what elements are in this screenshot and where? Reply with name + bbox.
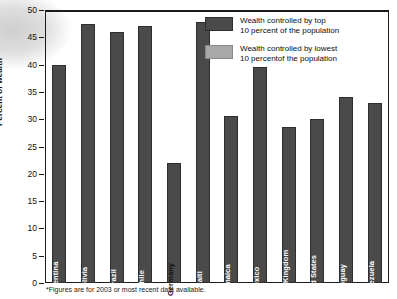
bar-top-uruguay[interactable] <box>339 97 353 283</box>
bar-top-chile[interactable] <box>138 26 152 283</box>
bar-slot-argentina[interactable]: Argentina <box>52 10 66 283</box>
bar-category-label-mexico: Mexico <box>253 266 261 292</box>
chart-footnote: *Figures are for 2003 or most recent dat… <box>46 286 206 293</box>
bar-slot-brazil[interactable]: Brazil <box>110 10 124 283</box>
chart-page: Percent of wealth 50454035302520151050 A… <box>0 0 397 299</box>
y-tick-20: 20 <box>0 169 44 179</box>
legend-label-lowest-line2: 10 percentof the population <box>240 54 337 64</box>
y-tick-25: 25 <box>0 142 44 152</box>
bar-slot-bolivia[interactable]: Bolivia <box>81 10 95 283</box>
bar-top-brazil[interactable] <box>110 32 124 283</box>
y-tick-10: 10 <box>0 223 44 233</box>
legend-label-top-line1: Wealth controlled by top <box>240 16 339 26</box>
legend-label-top: Wealth controlled by top 10 percent of t… <box>240 16 339 35</box>
chart-legend: Wealth controlled by top 10 percent of t… <box>205 16 381 72</box>
legend-label-lowest: Wealth controlled by lowest 10 percentof… <box>240 44 337 63</box>
legend-item-lowest: Wealth controlled by lowest 10 percentof… <box>205 44 381 63</box>
bar-slot-chile[interactable]: Chile <box>138 10 152 283</box>
legend-swatch-top-icon <box>205 17 233 31</box>
bar-top-jamaica[interactable] <box>224 116 238 283</box>
y-tick-45: 45 <box>0 32 44 42</box>
bar-slot-germany[interactable]: Germany <box>167 10 181 283</box>
y-tick-0: 0 <box>0 278 44 288</box>
legend-item-top: Wealth controlled by top 10 percent of t… <box>205 16 381 35</box>
y-tick-50: 50 <box>0 5 44 15</box>
y-tick-40: 40 <box>0 60 44 70</box>
bar-top-venezuela[interactable] <box>368 103 382 283</box>
bar-category-label-haiti: Haiti <box>195 271 203 288</box>
bar-top-mexico[interactable] <box>253 67 267 283</box>
y-tick-35: 35 <box>0 87 44 97</box>
bar-category-label-united-states: United States <box>310 254 318 299</box>
bar-category-label-united-kingdom: United Kingdom <box>281 249 289 299</box>
bar-top-bolivia[interactable] <box>81 24 95 283</box>
legend-label-lowest-line1: Wealth controlled by lowest <box>240 44 337 54</box>
bar-category-label-jamaica: Jamaica <box>224 264 232 294</box>
legend-swatch-lowest-icon <box>205 45 233 59</box>
legend-label-top-line2: 10 percent of the population <box>240 26 339 36</box>
bar-category-label-uruguay: Uruguay <box>339 263 347 294</box>
bar-top-argentina[interactable] <box>52 65 66 283</box>
y-tick-15: 15 <box>0 196 44 206</box>
y-tick-30: 30 <box>0 114 44 124</box>
bar-category-label-venezuela: Venezuela <box>367 260 375 297</box>
y-tick-5: 5 <box>0 251 44 261</box>
